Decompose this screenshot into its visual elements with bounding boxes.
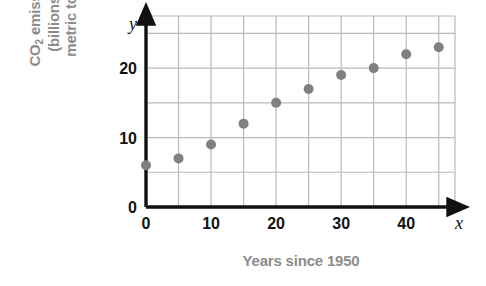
data-point xyxy=(336,70,346,80)
data-point xyxy=(401,49,411,59)
chart-screenshot: CO2 emissions (billions of metric tons) … xyxy=(0,0,486,286)
horizontal-gridlines xyxy=(146,33,455,207)
plot-border xyxy=(146,16,455,207)
x-axis-variable-label: x xyxy=(454,213,463,233)
x-tick-label: 40 xyxy=(397,215,415,232)
x-tick-label: 30 xyxy=(332,215,350,232)
data-point xyxy=(304,84,314,94)
x-axis-title: Years since 1950 xyxy=(146,252,456,269)
vertical-gridlines xyxy=(146,16,439,207)
data-point xyxy=(271,98,281,108)
data-point xyxy=(369,63,379,73)
y-axis-variable-label: y xyxy=(127,14,137,34)
data-point xyxy=(141,160,151,170)
data-point-group xyxy=(141,42,444,170)
data-point xyxy=(206,139,216,149)
y-tick-label: 0 xyxy=(128,199,137,216)
data-point xyxy=(239,119,249,129)
x-tick-label: 10 xyxy=(202,215,220,232)
data-point xyxy=(434,42,444,52)
y-tick-label: 20 xyxy=(119,60,137,77)
scatter-plot: 010203040 01020 x y xyxy=(0,0,486,286)
x-tick-label: 20 xyxy=(267,215,285,232)
y-tick-label: 10 xyxy=(119,130,137,147)
x-tick-label: 0 xyxy=(142,215,151,232)
data-point xyxy=(174,153,184,163)
y-tick-labels: 01020 xyxy=(119,60,137,216)
x-tick-labels: 010203040 xyxy=(142,215,416,232)
